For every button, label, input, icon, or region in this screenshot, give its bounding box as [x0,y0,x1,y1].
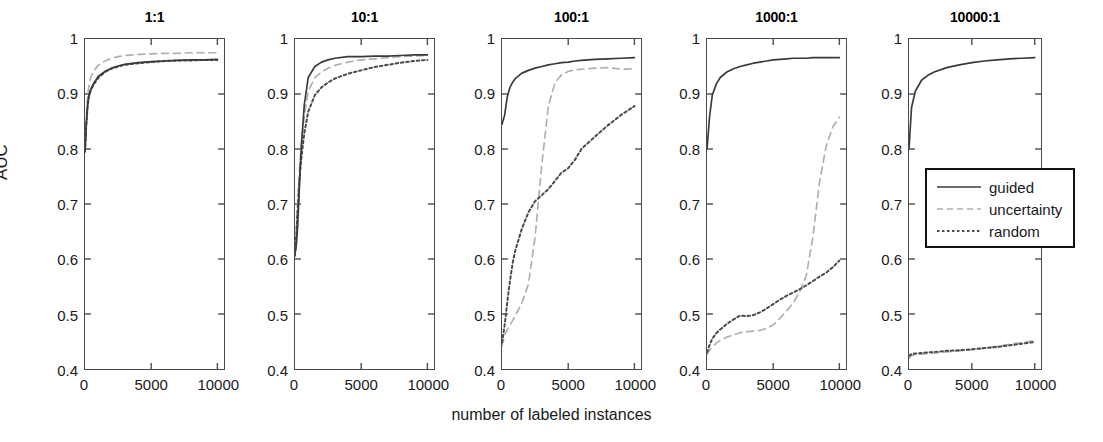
plot-lines [502,39,641,369]
series-line-random [909,342,1035,356]
y-tick-label: 0.7 [453,196,495,213]
y-tick-label: 1 [36,30,78,47]
x-tick-label: 0 [904,376,912,393]
y-tick-label: 0.9 [453,85,495,102]
plot-area [294,38,435,370]
y-tick-label: 0.7 [246,196,288,213]
panel-title: 10000:1 [908,9,1042,25]
series-line-uncertainty [295,56,427,255]
x-tick-label: 0 [290,376,298,393]
y-tick-label: 0.9 [860,85,902,102]
x-tick-label: 10000 [1015,376,1057,393]
x-tick-label: 5000 [344,376,377,393]
series-line-guided [909,58,1035,149]
x-axis-title: number of labeled instances [0,406,1103,424]
legend-label-random: random [989,224,1040,239]
y-tick-label: 0.4 [658,362,700,379]
y-tick-label: 0.4 [36,362,78,379]
y-tick-label: 0.8 [36,140,78,157]
y-tick-label: 0.8 [246,140,288,157]
plot-lines [85,39,224,369]
figure-root: AUC 1:1 10:1 100:1 1000:1 10000:1 [0,0,1103,442]
series-line-guided [85,59,217,151]
y-tick-label: 0.6 [453,251,495,268]
x-tick-label: 5000 [551,376,584,393]
x-tick-label: 0 [80,376,88,393]
x-tick-label: 10000 [614,376,656,393]
y-tick-label: 1 [453,30,495,47]
series-line-random [85,60,217,152]
y-tick-label: 0.5 [453,306,495,323]
legend-swatch-guided-icon [936,181,982,193]
x-tick-label: 5000 [756,376,789,393]
plot-area [706,38,847,370]
panel-title: 100:1 [501,9,642,25]
x-tick-label: 5000 [955,376,988,393]
x-tick-label: 0 [497,376,505,393]
panel-title: 1000:1 [706,9,847,25]
legend-label-guided: guided [989,180,1034,195]
plot-area [84,38,225,370]
legend-item-uncertainty: uncertainty [927,198,1073,220]
legend-item-random: random [927,220,1073,242]
x-tick-label: 10000 [407,376,449,393]
panel-title: 10:1 [294,9,435,25]
y-tick-label: 0.7 [658,196,700,213]
x-tick-label: 10000 [819,376,861,393]
y-tick-label: 0.7 [860,196,902,213]
legend: guided uncertainty random [925,168,1075,248]
y-tick-label: 0.5 [246,306,288,323]
y-tick-label: 1 [658,30,700,47]
y-tick-label: 0.6 [658,251,700,268]
series-line-random [295,60,427,256]
series-line-guided [295,55,427,254]
x-tick-label: 10000 [197,376,239,393]
y-tick-label: 0.4 [246,362,288,379]
series-line-guided [707,58,839,149]
series-line-random [707,261,839,353]
plot-lines [295,39,434,369]
y-tick-label: 0.5 [658,306,700,323]
y-tick-label: 0.6 [860,251,902,268]
series-line-uncertainty [502,68,634,346]
plot-lines [707,39,846,369]
legend-swatch-random-icon [936,225,982,237]
x-tick-label: 5000 [134,376,167,393]
panel-title: 1:1 [84,9,225,25]
y-tick-label: 0.8 [453,140,495,157]
y-tick-label: 0.5 [860,306,902,323]
y-tick-label: 0.9 [36,85,78,102]
legend-swatch-uncertainty-icon [936,203,982,215]
y-tick-label: 0.4 [453,362,495,379]
y-tick-label: 0.9 [246,85,288,102]
legend-label-uncertainty: uncertainty [989,202,1062,217]
y-tick-label: 0.5 [36,306,78,323]
plot-area [501,38,642,370]
y-tick-label: 1 [860,30,902,47]
series-line-uncertainty [85,53,217,152]
y-tick-label: 0.4 [860,362,902,379]
legend-item-guided: guided [927,176,1073,198]
y-tick-label: 1 [246,30,288,47]
y-tick-label: 0.8 [860,140,902,157]
series-line-random [502,106,634,342]
y-tick-label: 0.6 [246,251,288,268]
y-tick-label: 0.6 [36,251,78,268]
x-tick-label: 0 [702,376,710,393]
y-tick-label: 0.8 [658,140,700,157]
y-tick-label: 0.7 [36,196,78,213]
series-line-uncertainty [707,117,839,354]
y-axis-title: AUC [0,144,12,180]
y-tick-label: 0.9 [658,85,700,102]
